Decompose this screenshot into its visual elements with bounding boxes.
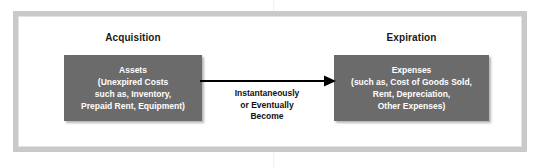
assets-box-line-2: such as, Inventory, [95, 88, 171, 100]
column-heading-expiration: Expiration [334, 32, 489, 43]
concept-box-expenses: Expenses (such as, Cost of Goods Sold, R… [334, 55, 489, 121]
arrow-caption: Instantaneously or Eventually Become [203, 88, 331, 123]
arrow-caption-line-3: Become [203, 111, 331, 123]
figure-canvas: Acquisition Expiration Assets (Unexpired… [0, 0, 549, 168]
assets-box-line-3: Prepaid Rent, Equipment) [81, 100, 185, 112]
expenses-box-line-1: (such as, Cost of Goods Sold, [351, 76, 472, 88]
expenses-box-line-3: Other Expenses) [378, 100, 446, 112]
assets-box-line-1: (Unexpired Costs [98, 76, 168, 88]
concept-box-assets: Assets (Unexpired Costs such as, Invento… [64, 55, 202, 121]
flow-arrow-icon [200, 74, 336, 88]
arrow-caption-line-2: or Eventually [203, 100, 331, 112]
expenses-box-line-2: Rent, Depreciation, [373, 88, 450, 100]
assets-box-title: Assets [119, 64, 147, 76]
expenses-box-title: Expenses [392, 64, 432, 76]
column-heading-acquisition: Acquisition [64, 32, 202, 43]
arrow-caption-line-1: Instantaneously [203, 88, 331, 100]
